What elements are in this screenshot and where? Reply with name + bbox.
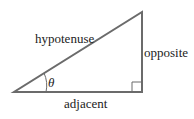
triangle	[14, 12, 142, 92]
theta-label: θ	[48, 75, 55, 90]
opposite-label: opposite	[144, 45, 188, 60]
right-triangle-diagram: hypotenuse opposite adjacent θ	[0, 0, 194, 119]
adjacent-label: adjacent	[64, 96, 108, 111]
angle-arc	[44, 73, 47, 92]
hypotenuse-label: hypotenuse	[35, 31, 94, 46]
right-angle-marker	[132, 82, 142, 92]
